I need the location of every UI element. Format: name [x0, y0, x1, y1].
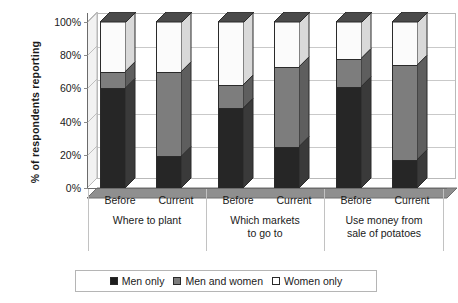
bar-2-segment-men_only — [218, 108, 244, 188]
bar-0-side-face — [125, 12, 136, 189]
legend-item-men-only: Men only — [110, 275, 165, 287]
legend-label-women-only: Women only — [284, 275, 342, 287]
x-group-label-0: Where to plant — [90, 214, 204, 227]
bar-1-segment-men_only — [156, 156, 182, 188]
y-tick-label-80: 80% — [39, 50, 81, 60]
bar-0 — [100, 22, 126, 188]
bar-1 — [156, 22, 182, 188]
legend-label-men-only: Men only — [122, 275, 165, 287]
bar-1-top-face — [156, 12, 193, 24]
x-group-label-1: Which marketsto go to — [208, 214, 322, 239]
x-tick-label-1: Current — [148, 194, 204, 206]
x-axis-band: Before Current Before Current Before Cur… — [88, 189, 448, 251]
chart-legend: Men only Men and women Women only — [75, 270, 377, 292]
legend-swatch-men-and-women — [173, 277, 181, 285]
segment-divider — [157, 72, 181, 73]
bar-1-segment-women_only — [156, 22, 182, 72]
legend-swatch-women-only — [272, 277, 280, 285]
bar-5-top-face — [392, 12, 429, 24]
plot-area: 100% 80% 60% 40% 20% 0% — [88, 22, 447, 188]
segment-divider — [101, 72, 125, 73]
segment-divider — [219, 108, 243, 109]
bar-3-segment-men_and_women — [274, 67, 300, 147]
segment-divider — [219, 85, 243, 86]
bar-0-top-face — [100, 12, 137, 24]
bar-1-side-face — [181, 12, 192, 189]
bar-4 — [336, 22, 362, 188]
segment-divider — [393, 160, 417, 161]
segment-divider — [275, 67, 299, 68]
bar-3-segment-men_only — [274, 147, 300, 189]
bar-3 — [274, 22, 300, 188]
x-tick-label-3: Current — [266, 194, 322, 206]
bar-4-top-face — [336, 12, 373, 24]
bar-0-segment-men_and_women — [100, 72, 126, 89]
bar-2-segment-men_and_women — [218, 85, 244, 108]
x-tick-label-4: Before — [328, 194, 384, 206]
bar-5-segment-men_only — [392, 160, 418, 188]
bar-5 — [392, 22, 418, 188]
bar-2-side-face — [243, 12, 254, 189]
y-axis-title: % of respondents reporting — [29, 17, 41, 207]
y-tick-label-100: 100% — [39, 17, 81, 27]
bar-0-segment-women_only — [100, 22, 126, 72]
segment-divider — [157, 156, 181, 157]
x-tick-label-2: Before — [210, 194, 266, 206]
legend-label-men-and-women: Men and women — [185, 275, 263, 287]
bar-2-segment-women_only — [218, 22, 244, 85]
x-group-label-2: Use money fromsale of potatoes — [326, 214, 442, 239]
segment-divider — [101, 88, 125, 89]
stacked-bar-chart: % of respondents reporting 100% — [0, 0, 458, 303]
bar-series-container — [88, 22, 447, 188]
bar-5-segment-men_and_women — [392, 65, 418, 160]
y-tick-label-20: 20% — [39, 150, 81, 160]
segment-divider — [275, 147, 299, 148]
bar-1-segment-men_and_women — [156, 72, 182, 157]
bar-5-side-face — [417, 12, 428, 189]
bar-4-side-face — [361, 12, 372, 189]
y-tick-label-60: 60% — [39, 83, 81, 93]
bar-4-segment-men_only — [336, 87, 362, 188]
segment-divider — [337, 59, 361, 60]
legend-swatch-men-only — [110, 277, 118, 285]
bar-2 — [218, 22, 244, 188]
y-tick-label-40: 40% — [39, 117, 81, 127]
segment-divider — [337, 87, 361, 88]
segment-divider — [393, 65, 417, 66]
y-tick-label-0: 0% — [39, 183, 81, 193]
bar-2-top-face — [218, 12, 255, 24]
bar-4-segment-women_only — [336, 22, 362, 59]
bar-0-segment-men_only — [100, 88, 126, 188]
bar-3-side-face — [299, 12, 310, 189]
legend-item-women-only: Women only — [272, 275, 342, 287]
bar-4-segment-men_and_women — [336, 59, 362, 87]
bar-5-segment-women_only — [392, 22, 418, 65]
legend-item-men-and-women: Men and women — [173, 275, 263, 287]
bar-3-top-face — [274, 12, 311, 24]
x-tick-label-5: Current — [384, 194, 440, 206]
bar-3-segment-women_only — [274, 22, 300, 67]
x-tick-label-0: Before — [92, 194, 148, 206]
